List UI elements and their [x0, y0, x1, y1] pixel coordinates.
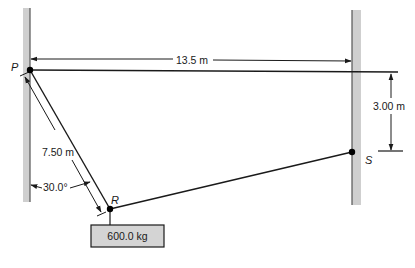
- mass-block: 600.0 kg: [91, 225, 164, 247]
- label-point-S: S: [365, 154, 373, 166]
- label-point-P: P: [11, 61, 19, 73]
- dimension-PR-length: 7.50 m: [20, 72, 106, 216]
- statics-diagram: 13.5 m 3.00 m 7.50 m 30.0° 600.0 kg P R …: [0, 0, 415, 268]
- left-wall: [23, 8, 30, 202]
- cable-RS: [110, 152, 352, 209]
- point-P-dot: [27, 67, 33, 73]
- point-S-dot: [349, 149, 355, 155]
- label-mass: 600.0 kg: [107, 230, 147, 242]
- label-angle: 30.0°: [43, 181, 68, 193]
- reference-line-horizontal: [30, 70, 398, 72]
- dimension-wall-separation: 13.5 m: [31, 54, 351, 66]
- dimension-vertical-offset: 3.00 m: [373, 74, 405, 151]
- label-point-R: R: [111, 194, 119, 206]
- cable-PR: [30, 70, 110, 209]
- label-PR-length: 7.50 m: [42, 146, 74, 158]
- label-wall-separation: 13.5 m: [176, 54, 208, 66]
- right-wall: [352, 10, 361, 205]
- label-vertical-offset: 3.00 m: [373, 100, 405, 112]
- point-R-dot: [107, 206, 113, 212]
- angle-annotation: 30.0°: [31, 181, 90, 193]
